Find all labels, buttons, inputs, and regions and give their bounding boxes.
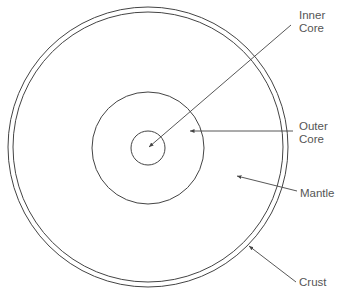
- outer-core-label-line1: Outer: [299, 120, 328, 133]
- outer-core-label: Outer Core: [299, 120, 328, 146]
- crust-label: Crust: [299, 276, 326, 289]
- earth-layers-diagram: [0, 0, 342, 295]
- crust-inner-boundary: [13, 12, 283, 282]
- inner-core-label: Inner Core: [299, 9, 325, 35]
- mantle-label: Mantle: [300, 187, 335, 200]
- outer-core-circle: [92, 92, 204, 204]
- inner-core-label-line2: Core: [299, 22, 325, 35]
- mantle-arrow: [237, 176, 297, 191]
- inner-core-circle: [131, 131, 165, 165]
- crust-outer-boundary: [8, 7, 288, 287]
- outer-core-label-line2: Core: [299, 133, 328, 146]
- inner-core-arrow: [149, 25, 291, 147]
- crust-arrow: [249, 246, 296, 282]
- inner-core-label-line1: Inner: [299, 9, 325, 22]
